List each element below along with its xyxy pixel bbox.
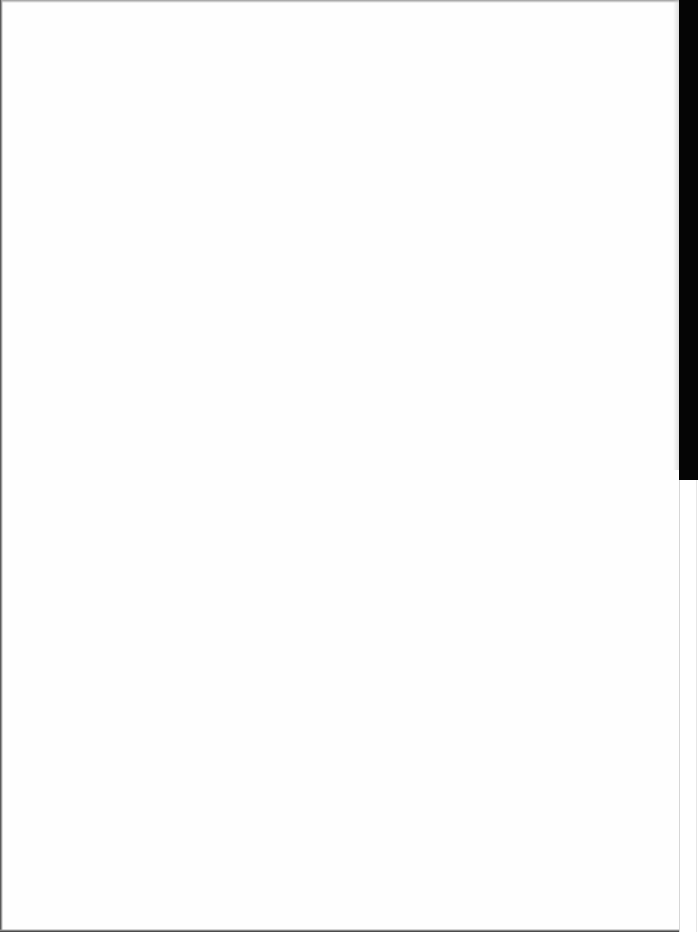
- page-left-edge-shadow: [0, 0, 3, 932]
- page-top-edge-shadow: [0, 0, 698, 3]
- blank-document-page: [0, 0, 698, 932]
- page-right-margin-strip: [679, 480, 698, 932]
- scanner-dark-margin: [679, 0, 698, 492]
